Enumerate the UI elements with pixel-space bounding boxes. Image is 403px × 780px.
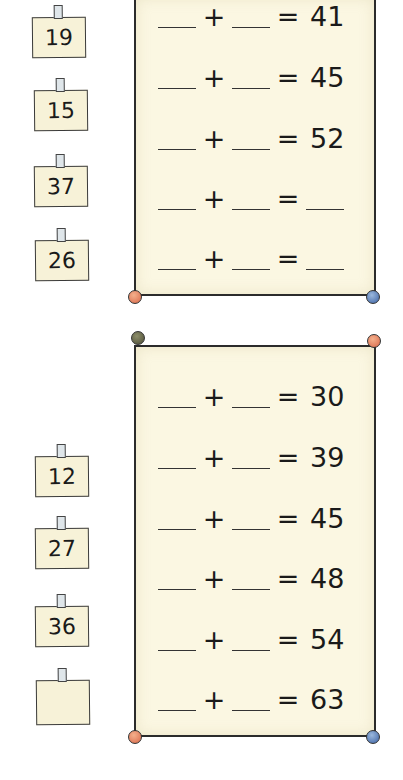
number-note[interactable]: 27 [35,528,89,570]
answer-blank[interactable] [158,649,196,651]
exercise-1-paper: +=41 +=45 +=52 += += [134,0,376,296]
tape-icon [57,444,66,458]
answer-blank[interactable] [158,148,196,150]
equation-row: +=45 [158,504,344,534]
tape-icon [57,516,66,530]
answer-blank[interactable] [158,528,196,530]
answer-blank[interactable] [232,268,270,270]
equation-row: +=30 [158,382,344,412]
answer-blank[interactable] [232,87,270,89]
exercise-2-paper: +=30 +=39 +=45 +=48 +=54 +=63 [134,345,376,737]
equation-row: +=52 [158,124,344,154]
equation-row: +=54 [158,625,344,655]
answer-blank[interactable] [232,467,270,469]
tape-icon [54,5,63,19]
red-pin-icon [128,290,142,304]
number-note[interactable]: 15 [34,90,88,132]
answer-blank[interactable] [158,268,196,270]
equation-row: +=39 [158,443,344,473]
answer-blank[interactable] [158,87,196,89]
answer-blank[interactable] [158,467,196,469]
red-pin-icon [128,730,142,744]
number-note[interactable]: 19 [32,17,86,59]
tape-icon [57,228,66,242]
answer-blank[interactable] [158,588,196,590]
equation-row: += [158,184,344,214]
tape-icon [56,154,65,168]
answer-blank[interactable] [158,208,196,210]
answer-blank[interactable] [232,528,270,530]
red-pin-icon [367,334,381,348]
tape-icon [58,668,67,682]
tape-icon [56,78,65,92]
answer-blank[interactable] [232,406,270,408]
answer-blank[interactable] [306,268,344,270]
blue-pin-icon [366,730,380,744]
empty-note[interactable] [36,680,90,726]
equation-row: +=63 [158,685,344,715]
answer-blank[interactable] [158,406,196,408]
answer-blank[interactable] [232,26,270,28]
answer-blank[interactable] [306,208,344,210]
number-note[interactable]: 36 [35,606,89,648]
answer-blank[interactable] [232,709,270,711]
blue-pin-icon [366,290,380,304]
answer-blank[interactable] [158,709,196,711]
equation-row: +=48 [158,564,344,594]
number-note[interactable]: 12 [35,456,89,498]
number-note[interactable]: 26 [35,240,89,282]
equation-row: += [158,244,344,274]
answer-blank[interactable] [232,148,270,150]
equation-row: +=45 [158,63,344,93]
number-note[interactable]: 37 [34,166,88,208]
equation-row: +=41 [158,2,344,32]
olive-pin-icon [131,331,145,345]
answer-blank[interactable] [232,588,270,590]
answer-blank[interactable] [232,208,270,210]
answer-blank[interactable] [158,26,196,28]
tape-icon [57,594,66,608]
answer-blank[interactable] [232,649,270,651]
